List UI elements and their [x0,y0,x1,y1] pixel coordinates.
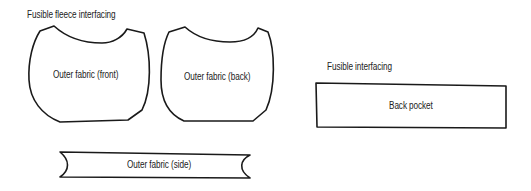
back-piece-label: Outer fabric (back) [184,71,250,82]
fleece-interfacing-label: Fusible fleece interfacing [27,9,116,20]
pocket-piece-label: Back pocket [389,100,433,111]
side-piece-label: Outer fabric (side) [127,159,191,170]
fusible-interfacing-label: Fusible interfacing [327,61,392,72]
front-piece-label: Outer fabric (front) [53,69,118,80]
pattern-diagram [0,0,531,191]
